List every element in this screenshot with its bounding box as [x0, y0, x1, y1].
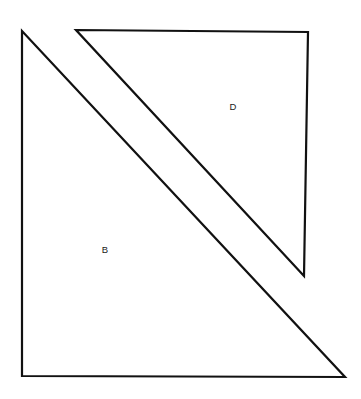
geometry-drawing: B D — [0, 0, 361, 399]
triangle-d-label: D — [229, 101, 236, 112]
triangle-b-label: B — [102, 244, 109, 255]
figure-canvas: B D — [0, 0, 361, 399]
